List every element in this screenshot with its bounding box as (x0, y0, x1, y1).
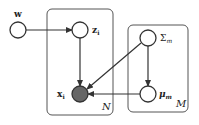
plate-m-label: M (175, 98, 187, 109)
node-sigma-label: Σm (160, 33, 172, 44)
node-w-label: w (13, 9, 22, 19)
node-z-label: zi (92, 25, 100, 36)
node-mu-label: μm (159, 89, 172, 100)
node-x (72, 86, 88, 102)
edge-sigma-x (87, 43, 141, 89)
node-sigma (140, 30, 156, 46)
graphical-model-diagram: N M w zi Σm xi μm (0, 0, 199, 125)
node-x-label: xi (57, 89, 65, 100)
node-z (72, 22, 88, 38)
plate-n-label: N (101, 101, 112, 112)
node-w (10, 22, 26, 38)
node-mu (140, 86, 156, 102)
